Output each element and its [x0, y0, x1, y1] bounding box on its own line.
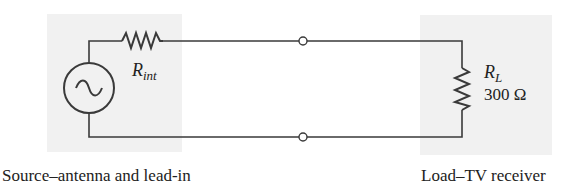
terminal-top	[299, 37, 307, 45]
internal-resistor-symbol: R	[132, 60, 143, 80]
bottom-wire	[89, 113, 299, 137]
load-bottom-wire	[307, 110, 462, 137]
load-resistor-icon	[455, 68, 469, 110]
internal-resistor-subscript: int	[143, 68, 157, 83]
load-resistor-value: 300 Ω	[484, 85, 526, 105]
source-left-wire	[89, 41, 122, 63]
load-caption: Load–TV receiver	[421, 166, 546, 186]
load-resistor-label: RL	[484, 62, 502, 86]
load-resistor-subscript: L	[495, 70, 502, 85]
terminal-bottom	[299, 133, 307, 141]
load-resistor-symbol: R	[484, 62, 495, 82]
source-caption: Source–antenna and lead-in	[2, 166, 191, 186]
internal-resistor-label: Rint	[132, 60, 157, 84]
internal-resistor-icon	[122, 33, 163, 48]
circuit-diagram: Rint RL 300 Ω Source–antenna and lead-in…	[0, 0, 572, 190]
sine-wave-icon	[76, 81, 102, 96]
